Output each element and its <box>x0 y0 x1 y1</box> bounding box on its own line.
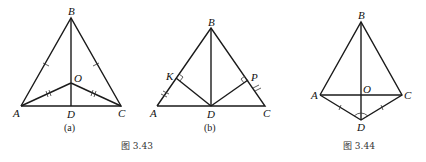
label-b-K: K <box>165 70 174 82</box>
caption-fig-3-44: 图 3.44 <box>343 141 375 151</box>
label-b-B: B <box>208 16 215 28</box>
figure-3-44: B A C D O <box>310 9 412 133</box>
figure-a: B A C D O (a) <box>12 5 126 134</box>
label-a-C: C <box>118 107 126 119</box>
label-344-C: C <box>404 89 412 101</box>
caption-fig-3-43: 图 3.43 <box>121 141 153 151</box>
label-a-B: B <box>68 5 75 17</box>
label-b-P: P <box>250 71 258 83</box>
label-b-C: C <box>263 107 271 119</box>
label-344-D: D <box>356 121 365 133</box>
label-344-B: B <box>358 9 365 21</box>
label-344-A: A <box>310 89 318 101</box>
sublabel-b: (b) <box>204 122 216 134</box>
label-344-O: O <box>363 83 371 95</box>
label-a-A: A <box>12 107 20 119</box>
label-a-O: O <box>74 72 82 84</box>
label-b-A: A <box>149 107 157 119</box>
label-b-D: D <box>206 108 215 120</box>
geometry-figures: B A C D O (a) B A C D K P (b) 图 3.43 <box>0 0 426 162</box>
label-a-D: D <box>66 108 75 120</box>
sublabel-a: (a) <box>64 122 75 134</box>
figure-b: B A C D K P (b) <box>149 16 271 134</box>
